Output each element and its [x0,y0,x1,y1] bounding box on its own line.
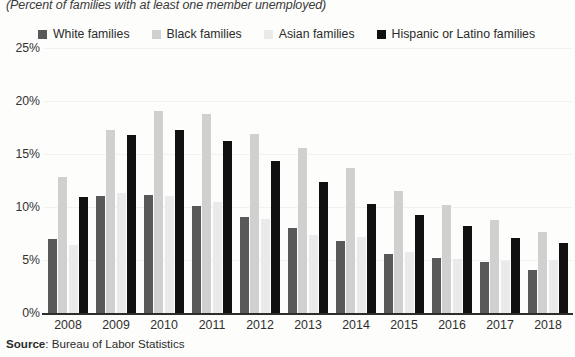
bar-2016-asian-families [453,259,462,313]
x-tick-label-2010: 2010 [140,318,188,332]
bar-2010-asian-families [165,196,174,313]
bar-group-2015 [380,48,428,313]
x-tick-label-2016: 2016 [428,318,476,332]
bar-2013-hispanic-or-latino-families [319,182,328,313]
bar-2009-white-families [96,196,105,313]
y-tick-label-0: 0% [6,306,40,320]
bar-2018-hispanic-or-latino-families [559,243,568,313]
bar-group-2010 [140,48,188,313]
bar-2012-white-families [240,217,249,313]
bar-group-2018 [524,48,572,313]
bar-group-2009 [92,48,140,313]
bar-2017-hispanic-or-latino-families [511,238,520,313]
x-tick-label-2008: 2008 [44,318,92,332]
bar-2014-hispanic-or-latino-families [367,204,376,313]
legend-item-white-families: White families [38,27,130,41]
bar-2014-white-families [336,241,345,313]
y-tick-label-5: 5% [6,253,40,267]
bar-2010-hispanic-or-latino-families [175,130,184,313]
bar-2011-black-families [202,114,211,313]
bar-2014-black-families [346,168,355,313]
bar-2014-asian-families [357,237,366,313]
bar-2018-white-families [528,270,537,313]
source-text: : Bureau of Labor Statistics [45,337,184,350]
x-axis-labels: 2008200920102011201220132014201520162017… [44,318,572,332]
y-tick-label-10: 10% [6,200,40,214]
bar-2015-white-families [384,254,393,313]
bar-2009-black-families [106,130,115,313]
bar-2008-black-families [58,177,67,313]
bar-2013-asian-families [309,235,318,313]
bar-2016-black-families [442,205,451,313]
bar-2010-white-families [144,195,153,313]
bar-2015-asian-families [405,252,414,313]
bar-group-2012 [236,48,284,313]
chart-legend: White families Black families Asian fami… [38,27,557,41]
bar-2013-black-families [298,148,307,313]
legend-label-black-families: Black families [167,27,242,41]
bar-group-2014 [332,48,380,313]
bar-group-2011 [188,48,236,313]
y-tick-label-20: 20% [6,94,40,108]
bar-2008-white-families [48,239,57,313]
bar-2009-asian-families [117,193,126,313]
x-tick-label-2014: 2014 [332,318,380,332]
bar-2018-black-families [538,232,547,313]
x-tick-label-2015: 2015 [380,318,428,332]
y-tick-label-25: 25% [6,41,40,55]
legend-swatch-black-families [152,30,161,39]
legend-label-hispanic-or-latino-families: Hispanic or Latino families [392,27,536,41]
bar-2012-asian-families [261,219,270,313]
bar-group-2017 [476,48,524,313]
source-label: Source [6,337,45,350]
bar-groups [44,48,572,313]
bar-group-2016 [428,48,476,313]
legend-label-white-families: White families [53,27,130,41]
bar-2012-hispanic-or-latino-families [271,161,280,313]
bar-2011-white-families [192,206,201,313]
y-axis: 25%20%15%10%5%0% [4,48,40,313]
bar-group-2008 [44,48,92,313]
legend-label-asian-families: Asian families [279,27,355,41]
x-tick-label-2017: 2017 [476,318,524,332]
bar-2011-hispanic-or-latino-families [223,141,232,313]
bar-2009-hispanic-or-latino-families [127,135,136,313]
bar-2016-white-families [432,258,441,313]
bar-2012-black-families [250,134,259,313]
x-tick-label-2013: 2013 [284,318,332,332]
bar-2008-asian-families [69,245,78,313]
x-tick-label-2011: 2011 [188,318,236,332]
x-tick-label-2012: 2012 [236,318,284,332]
x-tick-label-2009: 2009 [92,318,140,332]
legend-swatch-white-families [38,30,47,39]
source-note: Source: Bureau of Labor Statistics [6,337,185,350]
legend-swatch-hispanic-or-latino-families [377,30,386,39]
bar-2011-asian-families [213,202,222,313]
legend-item-asian-families: Asian families [264,27,355,41]
legend-item-hispanic-or-latino-families: Hispanic or Latino families [377,27,536,41]
y-tick-label-15: 15% [6,147,40,161]
bar-2013-white-families [288,228,297,313]
bar-2017-black-families [490,220,499,313]
x-tick-label-2018: 2018 [524,318,572,332]
chart-plot-area: 25%20%15%10%5%0% 20082009201020112012201… [0,48,575,316]
bar-2017-white-families [480,262,489,313]
bar-group-2013 [284,48,332,313]
bar-2017-asian-families [501,261,510,313]
legend-swatch-asian-families [264,30,273,39]
bar-2016-hispanic-or-latino-families [463,226,472,313]
chart-subtitle: (Percent of families with at least one m… [6,0,326,12]
bar-2010-black-families [154,111,163,313]
bar-2008-hispanic-or-latino-families [79,197,88,313]
legend-item-black-families: Black families [152,27,242,41]
x-axis-line [42,313,573,315]
bar-2018-asian-families [549,260,558,313]
bar-2015-black-families [394,191,403,313]
bar-2015-hispanic-or-latino-families [415,215,424,313]
